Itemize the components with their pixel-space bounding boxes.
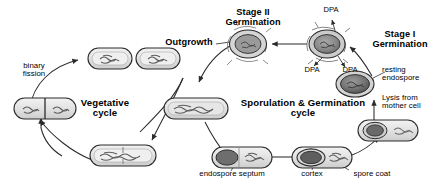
binary-fission-arrow — [41, 118, 62, 156]
label-sporulation-germination-cycle: Sporulation & Germination cycle — [218, 98, 388, 119]
label-stage-2-germination: Stage II Germination — [222, 8, 284, 28]
sporulation-germination-diagram: binary fission Vegetative cycle Sporulat… — [0, 0, 447, 187]
cell-elongating — [90, 145, 156, 166]
spore-stage1-germinating — [307, 22, 350, 64]
label-cortex: cortex — [290, 170, 334, 178]
label-binary-fission: binary fission — [8, 62, 60, 79]
label-resting-endospore: resting endospore — [382, 66, 444, 83]
spore-resting-endospore — [336, 71, 374, 97]
cell-daughter-right — [136, 48, 180, 69]
label-dpa-top: DPA — [313, 6, 349, 14]
label-dpa-right: DPA — [334, 66, 366, 74]
diagram-graphics — [0, 0, 447, 187]
label-outgrowth: Outgrowth — [158, 38, 220, 48]
cell-mature-spore-in-mother — [358, 120, 418, 141]
cell-cortex-spore-coat — [292, 147, 352, 168]
cell-endospore-septum — [212, 147, 272, 168]
label-lysis-from-mother-cell: Lysis from mother cell — [382, 94, 447, 111]
label-dpa-left: DPA — [296, 66, 328, 74]
label-stage-1-germination: Stage I Germination — [365, 30, 435, 50]
label-endospore-septum: endospore septum — [186, 170, 278, 178]
label-vegetative-cycle: Vegetative cycle — [60, 98, 150, 119]
cell-daughter-left — [88, 48, 132, 69]
label-spore-coat: spore coat — [340, 170, 404, 178]
